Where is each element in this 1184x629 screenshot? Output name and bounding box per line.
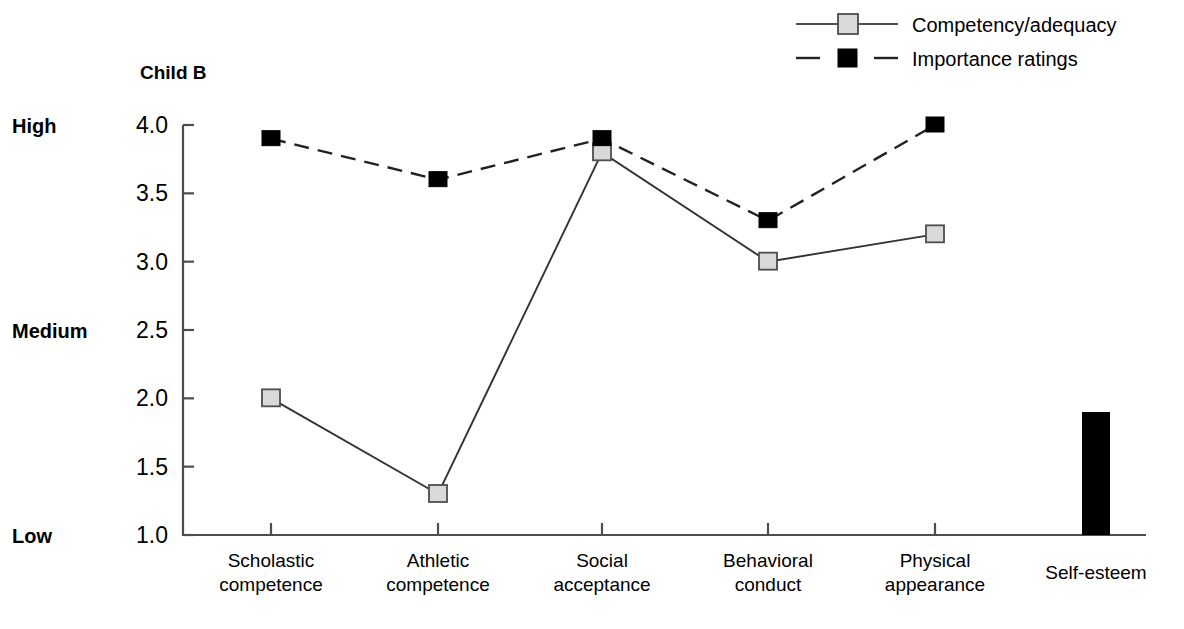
data-point-competency-3	[759, 253, 777, 270]
x-category-label-3: Behavioral	[723, 550, 813, 571]
y-axis-band-labels: HighMediumLow	[12, 115, 88, 547]
data-point-competency-1	[429, 485, 447, 502]
x-category-label-3: conduct	[735, 574, 802, 595]
y-tick-label-0: 4.0	[136, 112, 168, 138]
data-point-competency-4	[926, 225, 944, 242]
x-category-label-4: Physical	[900, 550, 971, 571]
x-category-label-1: competence	[386, 574, 490, 595]
chart-axes	[183, 125, 1146, 535]
data-point-importance-2	[593, 131, 611, 146]
y-tick-label-1: 3.5	[136, 180, 168, 206]
x-category-label-2: acceptance	[553, 574, 650, 595]
x-category-label-0: competence	[219, 574, 323, 595]
data-point-importance-1	[429, 172, 447, 187]
data-point-importance-0	[262, 131, 280, 146]
x-category-label-2: Social	[576, 550, 628, 571]
data-point-importance-3	[759, 213, 777, 228]
x-category-label-self-esteem: Self-esteem	[1045, 562, 1146, 583]
y-tick-label-4: 2.0	[136, 385, 168, 411]
y-tick-label-2: 3.0	[136, 249, 168, 275]
x-axis-category-labels: ScholasticcompetenceAthleticcompetenceSo…	[219, 550, 1146, 595]
child-b-line-chart: Competency/adequacyImportance ratings Ch…	[0, 0, 1184, 629]
y-band-label-medium: Medium	[12, 320, 88, 342]
self-esteem-bar	[1082, 412, 1110, 535]
legend-marker-competency	[838, 14, 858, 34]
data-point-competency-0	[262, 389, 280, 406]
chart-series	[262, 117, 944, 502]
legend-marker-importance	[838, 49, 857, 67]
chart-legend: Competency/adequacyImportance ratings	[796, 14, 1117, 70]
x-category-label-4: appearance	[885, 574, 985, 595]
y-tick-label-3: 2.5	[136, 317, 168, 343]
x-category-label-0: Scholastic	[228, 550, 315, 571]
data-point-importance-4	[926, 117, 944, 132]
self-esteem-bar-group	[1082, 412, 1110, 535]
chart-container: Competency/adequacyImportance ratings Ch…	[0, 0, 1184, 629]
y-band-label-high: High	[12, 115, 56, 137]
y-tick-label-5: 1.5	[136, 454, 168, 480]
x-category-label-1: Athletic	[407, 550, 469, 571]
y-band-label-low: Low	[12, 525, 52, 547]
y-axis-tick-labels: 4.03.53.02.52.01.51.0	[136, 112, 168, 548]
y-tick-label-6: 1.0	[136, 522, 168, 548]
axis-lines	[183, 125, 1146, 535]
legend-label-competency: Competency/adequacy	[912, 14, 1117, 36]
chart-title: Child B	[140, 62, 207, 83]
series-line-competency	[271, 152, 935, 494]
legend-label-importance: Importance ratings	[912, 48, 1078, 70]
